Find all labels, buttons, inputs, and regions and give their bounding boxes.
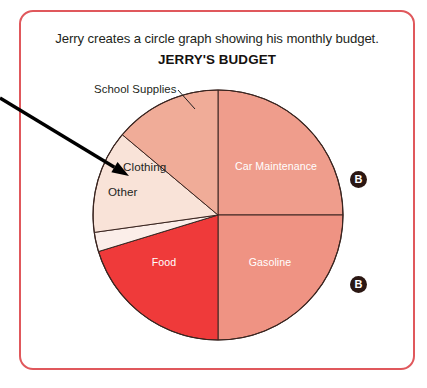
- pie-chart-svg: [0, 0, 427, 388]
- pie-label-food: Food: [128, 256, 200, 268]
- pie-label-school-supplies: School Supplies: [94, 83, 176, 95]
- answer-badge-b-top: B: [350, 171, 367, 188]
- pie-label-clothing: Clothing: [123, 160, 195, 173]
- pie-label-gasoline: Gasoline: [230, 256, 310, 268]
- worksheet-page: Jerry creates a circle graph showing his…: [0, 0, 427, 388]
- pie-label-car-maintenance: Car Maintenance: [224, 160, 328, 172]
- pie-slice-car-maintenance: [218, 90, 343, 215]
- pie-slice-group: [93, 90, 343, 340]
- pie-chart: [0, 0, 427, 388]
- pie-slice-gasoline: [218, 215, 343, 340]
- callout-arrow: [0, 98, 129, 176]
- answer-badge-b-bottom: B: [350, 276, 367, 293]
- pie-label-other: Other: [108, 185, 168, 198]
